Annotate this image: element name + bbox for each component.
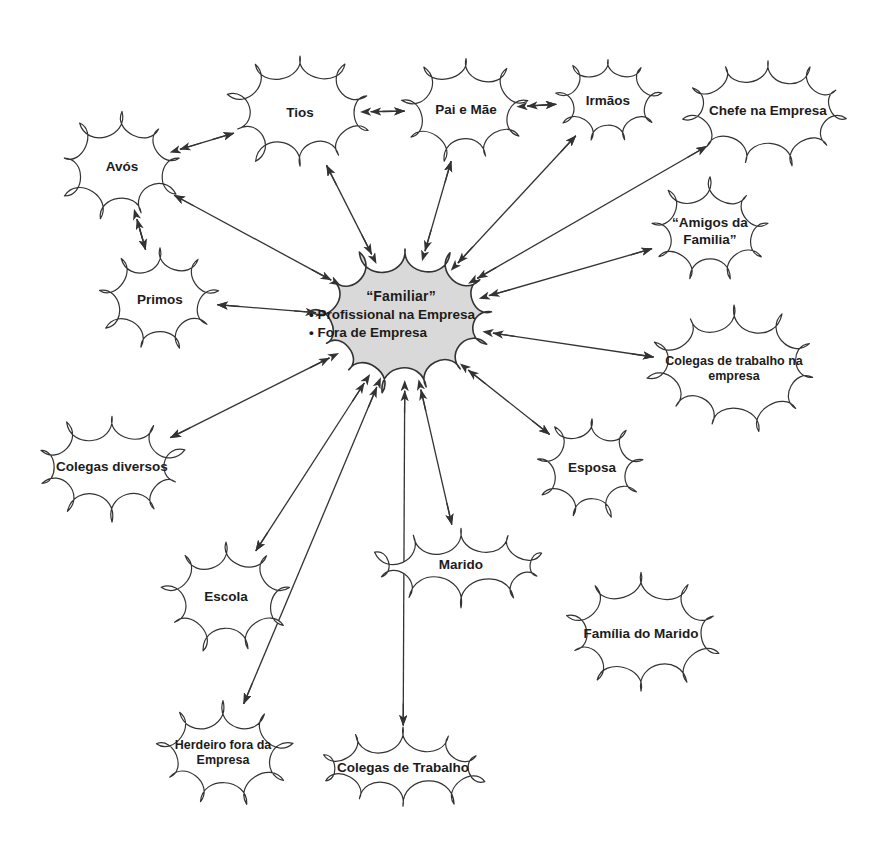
edge-arrowhead [632,354,654,357]
edge-arrowhead [489,290,510,296]
node-layer [41,56,846,806]
edge-arrowhead [458,247,473,263]
edge-arrowhead [493,333,515,336]
edge-familiar-to-avos [174,195,331,280]
diagram-svg [0,0,885,860]
edge-familiar-to-colegas-emp [493,333,654,357]
edge-arrowhead [468,370,485,384]
edge-arrowhead [447,503,452,524]
edge-arrowhead [180,143,201,149]
edge-arrowhead [137,219,143,240]
edge-arrowhead [631,249,652,255]
edge-arrowhead [445,161,451,182]
cloud-node-pai-e-mae[interactable] [402,59,528,162]
edge-familiar-to-amigos [489,249,652,296]
cloud-node-familiar[interactable] [310,249,491,393]
edge-arrowhead [421,390,426,411]
edge-arrowhead [170,428,190,438]
edge-arrowhead [688,146,707,157]
edge-arrowhead [527,105,549,106]
edge-arrowhead [362,235,372,255]
cloud-node-familia-mar[interactable] [567,572,719,691]
cloud-node-marido[interactable] [375,528,542,607]
edge-arrowhead [213,133,234,139]
edge-familiar-to-irmaos [458,136,576,263]
edge-familiar-to-escola [256,383,364,551]
edge-arrowhead [327,165,337,185]
cloud-node-primos[interactable] [100,248,219,348]
cloud-node-escola[interactable] [161,542,289,651]
edge-arrowhead [310,358,330,368]
edge-arrowhead [532,421,549,435]
cloud-node-esposa[interactable] [538,419,643,517]
cloud-node-irmaos[interactable] [556,60,662,140]
diagram-canvas: AvósTiosPai e MãeIrmãosChefe na Empresa“… [0,0,885,860]
cloud-node-chefe[interactable] [683,61,847,166]
edge-familiar-to-herdeiro [244,387,377,704]
edge-familiar-to-colegas-div [170,358,329,438]
edge-arrowhead [312,270,331,281]
cloud-node-colegas-div[interactable] [41,416,185,522]
cloud-node-colegas-trab[interactable] [324,727,485,806]
edge-arrowhead [256,532,268,551]
edge-arrowhead [244,684,253,704]
cloud-node-amigos[interactable] [652,177,768,279]
edge-arrowhead [368,387,377,407]
cloud-node-avos[interactable] [64,111,179,218]
cloud-node-herdeiro[interactable] [156,701,293,805]
edge-arrowhead [174,195,193,206]
edge-arrowhead [425,230,431,251]
cloud-node-colegas-emp[interactable] [647,305,813,431]
edge-arrowhead [561,136,576,152]
edge-familiar-to-chefe [477,146,707,278]
edge-familiar-to-colegas-trab [403,391,405,726]
cloud-node-tios[interactable] [227,56,368,166]
edge-arrowhead [217,305,239,307]
edge-arrowhead [477,267,496,278]
edge-arrowhead [352,383,364,401]
